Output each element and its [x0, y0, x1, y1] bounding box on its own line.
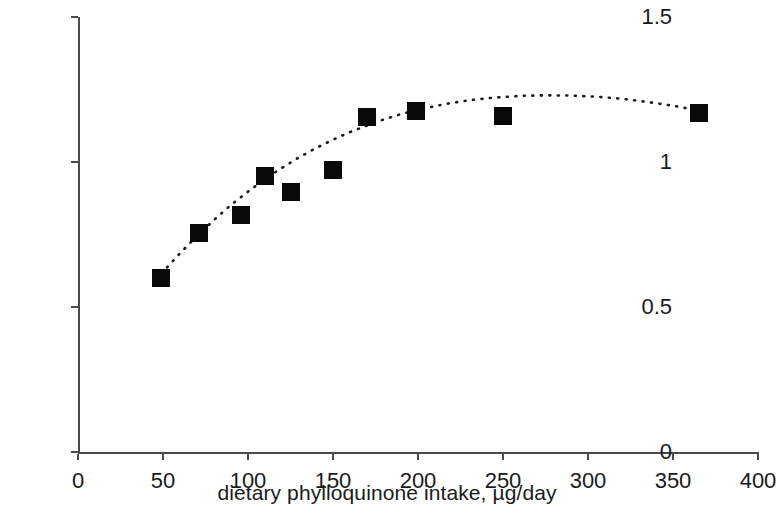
- x-tick: [247, 454, 249, 460]
- data-point: [407, 102, 425, 120]
- x-tick: [587, 454, 589, 460]
- data-point: [690, 104, 708, 122]
- trend-curve: [78, 17, 758, 453]
- data-point: [256, 167, 274, 185]
- data-point: [358, 108, 376, 126]
- y-tick: [71, 451, 78, 453]
- y-tick: [71, 16, 78, 18]
- x-tick: [417, 454, 419, 460]
- x-tick: [77, 454, 79, 460]
- y-tick-label: 1.5: [641, 4, 672, 30]
- y-tick-label: 0: [660, 439, 672, 465]
- data-point: [232, 206, 250, 224]
- data-point: [190, 224, 208, 242]
- x-tick: [332, 454, 334, 460]
- data-point: [324, 161, 342, 179]
- data-point: [152, 269, 170, 287]
- data-point: [282, 183, 300, 201]
- y-tick: [71, 161, 78, 163]
- y-tick-label: 0.5: [641, 294, 672, 320]
- x-tick: [162, 454, 164, 460]
- y-tick-label: 1: [660, 149, 672, 175]
- x-tick: [502, 454, 504, 460]
- y-axis-line: [78, 17, 80, 453]
- data-point: [494, 107, 512, 125]
- plot-area: 00.511.5 050100150200250300350400: [78, 17, 758, 452]
- y-tick: [71, 306, 78, 308]
- x-axis-label: dietary phylloquinone intake, µg/day: [0, 481, 774, 505]
- x-tick: [757, 454, 759, 460]
- x-tick: [672, 454, 674, 460]
